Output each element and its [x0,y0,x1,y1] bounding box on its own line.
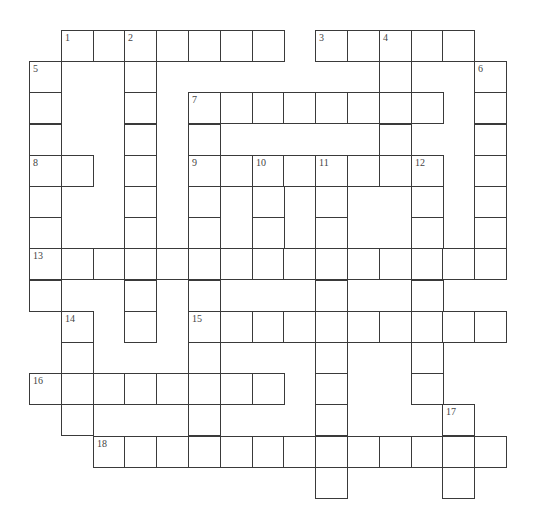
crossword-cell[interactable] [474,124,507,156]
crossword-cell[interactable]: 12 [411,155,444,187]
crossword-cell[interactable] [252,30,285,62]
crossword-cell[interactable] [93,248,126,280]
crossword-cell[interactable] [252,311,285,343]
crossword-cell[interactable] [124,311,157,343]
crossword-cell[interactable] [61,373,94,405]
crossword-cell[interactable] [220,155,253,187]
crossword-cell[interactable] [474,436,507,468]
crossword-cell[interactable] [220,436,253,468]
crossword-cell[interactable] [252,217,285,249]
crossword-cell[interactable]: 3 [315,30,348,62]
crossword-cell[interactable] [156,248,189,280]
crossword-cell[interactable] [124,217,157,249]
crossword-cell[interactable] [411,186,444,218]
crossword-cell[interactable] [283,155,316,187]
crossword-cell[interactable]: 8 [29,155,62,187]
crossword-cell[interactable] [379,155,412,187]
crossword-cell[interactable] [188,186,221,218]
crossword-cell[interactable] [220,92,253,124]
crossword-cell[interactable] [411,92,444,124]
crossword-cell[interactable] [347,311,380,343]
crossword-cell[interactable]: 9 [188,155,221,187]
crossword-cell[interactable] [442,467,475,499]
crossword-cell[interactable] [188,342,221,374]
crossword-cell[interactable]: 10 [252,155,285,187]
crossword-cell[interactable]: 5 [29,61,62,93]
crossword-cell[interactable] [93,373,126,405]
crossword-cell[interactable] [124,248,157,280]
crossword-cell[interactable] [411,342,444,374]
crossword-cell[interactable] [379,311,412,343]
crossword-cell[interactable]: 6 [474,61,507,93]
crossword-cell[interactable]: 1 [61,30,94,62]
crossword-cell[interactable] [315,311,348,343]
crossword-cell[interactable] [474,186,507,218]
crossword-cell[interactable] [124,280,157,312]
crossword-cell[interactable] [474,155,507,187]
crossword-cell[interactable]: 15 [188,311,221,343]
crossword-cell[interactable] [156,373,189,405]
crossword-cell[interactable] [124,436,157,468]
crossword-cell[interactable] [379,124,412,156]
crossword-cell[interactable] [252,248,285,280]
crossword-cell[interactable] [124,186,157,218]
crossword-cell[interactable] [347,92,380,124]
crossword-cell[interactable] [442,248,475,280]
crossword-cell[interactable] [315,186,348,218]
crossword-cell[interactable] [411,373,444,405]
crossword-cell[interactable] [379,61,412,93]
crossword-cell[interactable] [379,92,412,124]
crossword-cell[interactable] [124,373,157,405]
crossword-cell[interactable] [474,248,507,280]
crossword-cell[interactable] [252,186,285,218]
crossword-cell[interactable]: 13 [29,248,62,280]
crossword-cell[interactable] [315,436,348,468]
crossword-cell[interactable]: 17 [442,404,475,436]
crossword-cell[interactable] [124,92,157,124]
crossword-cell[interactable] [29,280,62,312]
crossword-cell[interactable] [124,155,157,187]
crossword-cell[interactable] [379,248,412,280]
crossword-cell[interactable] [220,248,253,280]
crossword-cell[interactable] [283,248,316,280]
crossword-cell[interactable] [315,248,348,280]
crossword-cell[interactable] [474,311,507,343]
crossword-cell[interactable] [315,373,348,405]
crossword-cell[interactable] [156,436,189,468]
crossword-cell[interactable] [442,436,475,468]
crossword-cell[interactable] [347,30,380,62]
crossword-cell[interactable] [124,124,157,156]
crossword-cell[interactable] [61,248,94,280]
crossword-cell[interactable] [315,92,348,124]
crossword-cell[interactable] [188,248,221,280]
crossword-cell[interactable] [124,61,157,93]
crossword-cell[interactable] [347,155,380,187]
crossword-cell[interactable] [188,436,221,468]
crossword-cell[interactable] [411,280,444,312]
crossword-cell[interactable] [61,155,94,187]
crossword-cell[interactable] [347,436,380,468]
crossword-cell[interactable] [474,217,507,249]
crossword-cell[interactable] [315,280,348,312]
crossword-cell[interactable] [315,342,348,374]
crossword-cell[interactable]: 11 [315,155,348,187]
crossword-cell[interactable] [188,30,221,62]
crossword-cell[interactable] [347,248,380,280]
crossword-cell[interactable] [220,373,253,405]
crossword-cell[interactable]: 16 [29,373,62,405]
crossword-cell[interactable] [252,436,285,468]
crossword-cell[interactable] [156,30,189,62]
crossword-cell[interactable] [188,404,221,436]
crossword-cell[interactable] [29,124,62,156]
crossword-cell[interactable]: 14 [61,311,94,343]
crossword-cell[interactable] [411,30,444,62]
crossword-cell[interactable] [442,30,475,62]
crossword-cell[interactable] [411,217,444,249]
crossword-cell[interactable]: 7 [188,92,221,124]
crossword-cell[interactable] [411,248,444,280]
crossword-cell[interactable] [93,30,126,62]
crossword-cell[interactable] [283,311,316,343]
crossword-cell[interactable] [283,436,316,468]
crossword-cell[interactable] [411,311,444,343]
crossword-cell[interactable] [29,92,62,124]
